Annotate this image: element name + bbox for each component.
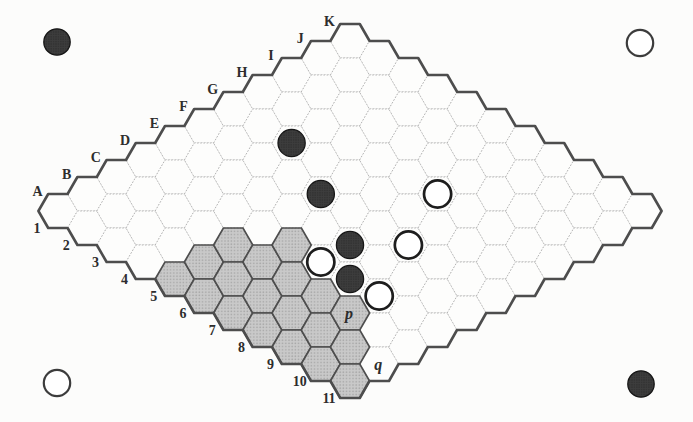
hex-cell-B10[interactable] xyxy=(330,330,369,364)
row-label-1: 1 xyxy=(34,221,41,236)
column-label-H: H xyxy=(236,65,247,80)
hex-cell-D6[interactable] xyxy=(272,228,311,262)
corner-marker-top-right-white xyxy=(627,30,653,56)
black-stone-G3[interactable] xyxy=(278,129,305,156)
column-label-E: E xyxy=(150,116,159,131)
black-stone-D8[interactable] xyxy=(336,265,363,292)
hex-board-figure: ABCDEFGHIJK1234567891011pq xyxy=(0,0,693,422)
white-stone-D7[interactable] xyxy=(307,248,334,275)
row-label-10: 10 xyxy=(293,374,307,389)
row-label-6: 6 xyxy=(180,306,187,321)
row-label-4: 4 xyxy=(121,272,128,287)
white-stone-H7[interactable] xyxy=(424,180,451,207)
corner-marker-bottom-right-black xyxy=(628,371,654,397)
row-label-9: 9 xyxy=(267,357,274,372)
cell-label-p: p xyxy=(343,305,353,323)
row-label-2: 2 xyxy=(63,238,70,253)
column-label-K: K xyxy=(324,14,335,29)
white-stone-F8[interactable] xyxy=(395,231,422,258)
column-label-C: C xyxy=(91,150,101,165)
column-label-D: D xyxy=(120,133,130,148)
corner-marker-top-left-black xyxy=(44,29,70,55)
column-label-B: B xyxy=(62,167,71,182)
row-label-7: 7 xyxy=(209,323,216,338)
column-label-J: J xyxy=(297,31,304,46)
row-label-5: 5 xyxy=(150,289,157,304)
row-label-3: 3 xyxy=(92,255,99,270)
corner-marker-bottom-left-white xyxy=(44,370,70,396)
white-stone-D9[interactable] xyxy=(366,282,393,309)
cell-label-q: q xyxy=(374,356,382,374)
row-label-8: 8 xyxy=(238,340,245,355)
column-label-A: A xyxy=(32,184,43,199)
hex-board: ABCDEFGHIJK1234567891011pq xyxy=(0,0,693,422)
black-stone-F5[interactable] xyxy=(307,180,334,207)
column-label-G: G xyxy=(207,82,218,97)
column-label-I: I xyxy=(268,48,273,63)
column-label-F: F xyxy=(179,99,188,114)
row-label-11: 11 xyxy=(322,391,335,406)
black-stone-E7[interactable] xyxy=(336,231,363,258)
